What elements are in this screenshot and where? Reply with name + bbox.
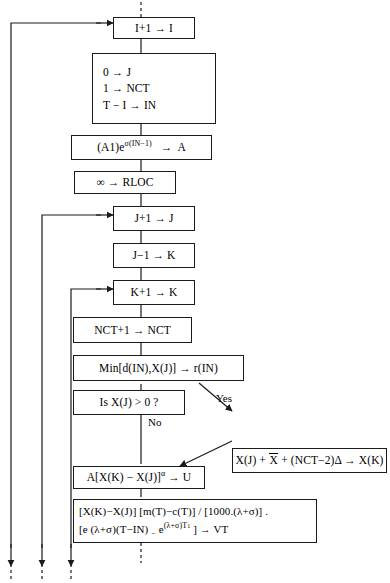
increment-i-box[interactable]: I+1 → I (113, 17, 195, 39)
flowchart-canvas: I+1 → I 0 → J 1 → NCT T − I → IN (A1)eσ(… (0, 0, 390, 583)
increment-nct-text: NCT+1 → NCT (94, 322, 171, 338)
compute-u-box[interactable]: A[X(K) − X(J)]α → U (73, 466, 205, 489)
no-label: No (148, 416, 161, 428)
increment-k-box[interactable]: K+1 → K (113, 280, 195, 305)
init-line-2: 1 → NCT (103, 80, 150, 96)
compute-x-k-box[interactable]: X(J) + X + (NCT−2)Δ → X(K) (232, 448, 387, 473)
init-line-1: 0 → J (103, 64, 131, 80)
compute-vt-line-1: [X(K)−X(J)] [m(T)−c(T)] / [1000.(λ+σ)] . (79, 503, 268, 521)
increment-i-text: I+1 → I (135, 20, 173, 36)
yes-return-line (180, 441, 232, 466)
compute-vt-box[interactable]: [X(K)−X(J)] [m(T)−c(T)] / [1000.(λ+σ)] .… (73, 499, 317, 543)
compute-u-text: A[X(K) − X(J)]α → U (87, 469, 192, 485)
compute-x-k-text: X(J) + X + (NCT−2)Δ → X(K) (236, 452, 384, 468)
increment-nct-box[interactable]: NCT+1 → NCT (73, 317, 192, 343)
set-k-text: J−1 → K (133, 247, 176, 263)
increment-j-box[interactable]: J+1 → J (113, 206, 195, 231)
compute-a-box[interactable]: (A1)eσ(IN−1)→A (71, 135, 212, 160)
set-k-box[interactable]: J−1 → K (113, 243, 195, 268)
yes-label: Yes (216, 392, 232, 404)
initialize-j-nct-in-box[interactable]: 0 → J 1 → NCT T − I → IN (92, 53, 216, 124)
decision-text: Is X(J) > 0 ? (100, 394, 159, 410)
increment-j-text: J+1 → J (134, 210, 173, 226)
compute-min-box[interactable]: Min[d(IN),X(J)] → r(IN) (73, 355, 244, 381)
compute-min-text: Min[d(IN),X(J)] → r(IN) (99, 360, 218, 376)
compute-vt-line-2: [e (λ+σ)(T−IN) − e(λ+σ)T1 ] → VT (79, 521, 228, 539)
init-line-3: T − I → IN (103, 97, 156, 113)
set-rloc-box[interactable]: ∞ → RLOC (74, 171, 176, 194)
compute-a-text: (A1)eσ(IN−1)→A (97, 139, 186, 155)
decision-box[interactable]: Is X(J) > 0 ? (73, 390, 185, 415)
increment-k-text: K+1 → K (131, 284, 178, 300)
set-rloc-text: ∞ → RLOC (97, 174, 154, 190)
